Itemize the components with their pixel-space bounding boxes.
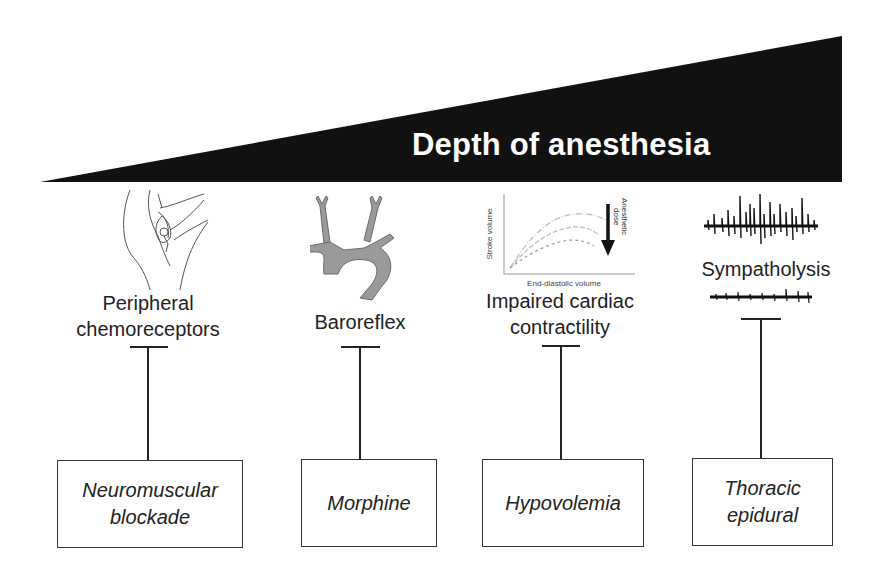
mini-chart-xlabel: End-diastolic volume — [527, 279, 601, 288]
wedge-title: Depth of anesthesia — [412, 127, 710, 163]
sympathetic-nerve-trace-icon — [700, 190, 830, 250]
suppressed-nerve-trace-icon — [706, 286, 818, 306]
label-line: Baroreflex — [300, 309, 420, 335]
inhibitor-box-hypovolemia: Hypovolemia — [482, 459, 644, 547]
inhibition-bar — [130, 346, 168, 348]
label-sympatholysis: Sympatholysis — [684, 256, 848, 282]
inhibitor-box-neuromuscular-blockade: Neuromuscular blockade — [57, 460, 243, 548]
frank-starling-curve-icon: Stroke volume End-diastolic volume Anest… — [480, 186, 650, 290]
inhibitor-label: Hypovolemia — [505, 490, 621, 517]
depth-wedge — [0, 0, 880, 200]
carotid-body-sketch-icon — [100, 186, 210, 292]
label-line: Sympatholysis — [684, 256, 848, 282]
label-peripheral-chemoreceptors: Peripheral chemoreceptors — [48, 290, 248, 342]
inhibitor-label: Thoracic epidural — [724, 475, 801, 529]
label-line: Impaired cardiac — [460, 288, 660, 314]
connector-line — [560, 345, 562, 459]
label-line: Peripheral — [48, 290, 248, 316]
aortic-arch-icon — [310, 190, 410, 302]
inhibitor-box-thoracic-epidural: Thoracic epidural — [692, 458, 833, 546]
label-line: contractility — [460, 314, 660, 340]
label-baroreflex: Baroreflex — [300, 309, 420, 335]
inhibitor-box-morphine: Morphine — [301, 459, 437, 547]
connector-line — [760, 318, 762, 458]
inhibitor-label: Neuromuscular blockade — [82, 477, 218, 531]
inhibitor-label: Morphine — [327, 490, 410, 517]
label-line: chemoreceptors — [48, 316, 248, 342]
label-impaired-cardiac-contractility: Impaired cardiac contractility — [460, 288, 660, 340]
connector-line — [147, 346, 149, 460]
arrow-label: dose — [612, 208, 621, 226]
connector-line — [359, 346, 361, 459]
mini-chart-ylabel: Stroke volume — [485, 208, 494, 260]
